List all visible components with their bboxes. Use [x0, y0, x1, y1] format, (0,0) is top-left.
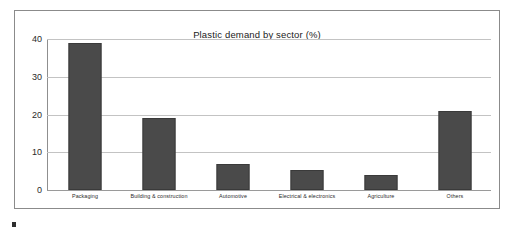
- figure-frame: Plastic demand by sector (%) 010203040 P…: [14, 10, 500, 209]
- bar: [365, 175, 398, 190]
- scan-artifact-mark: [12, 222, 16, 227]
- y-tick-label-10: 10: [32, 147, 42, 157]
- gridline-0: 0: [47, 190, 491, 191]
- bar-slot: Automotive: [196, 39, 270, 190]
- bar: [439, 111, 472, 190]
- bar-slot: Packaging: [48, 39, 122, 190]
- bar-category-label: Packaging: [72, 193, 98, 199]
- y-tick-label-30: 30: [32, 72, 42, 82]
- bar: [217, 164, 250, 190]
- y-tick-label-40: 40: [32, 34, 42, 44]
- bar-slot: Others: [418, 39, 492, 190]
- bar-category-label: Others: [447, 193, 464, 199]
- bar-category-label: Automotive: [219, 193, 247, 199]
- bar: [69, 43, 102, 190]
- y-tick-label-0: 0: [37, 185, 42, 195]
- bar-category-label: Electrical & electronics: [279, 193, 336, 199]
- y-tick-label-20: 20: [32, 110, 42, 120]
- bar-slot: Agriculture: [344, 39, 418, 190]
- bar: [291, 170, 324, 190]
- bars-layer: PackagingBuilding & constructionAutomoti…: [48, 39, 491, 190]
- bar: [143, 118, 176, 190]
- bar-category-label: Building & construction: [130, 193, 187, 199]
- plot-area: 010203040 PackagingBuilding & constructi…: [47, 39, 491, 190]
- bar-slot: Electrical & electronics: [270, 39, 344, 190]
- bar-category-label: Agriculture: [368, 193, 395, 199]
- bar-slot: Building & construction: [122, 39, 196, 190]
